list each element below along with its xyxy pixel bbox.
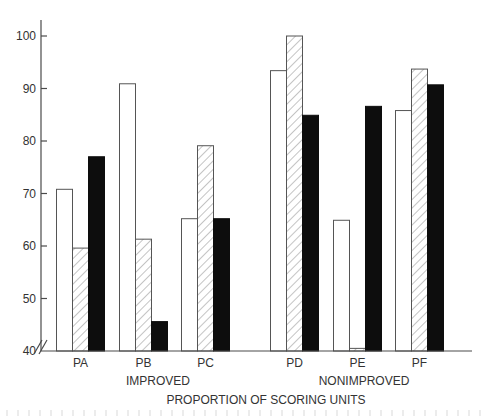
bar-pa-black — [89, 157, 105, 351]
bar-pd-hatched — [287, 36, 303, 351]
cut-off-caption-line — [0, 410, 490, 416]
bar-pd-white — [271, 71, 287, 351]
x-category-label: PB — [135, 356, 151, 370]
y-tick-label: 100 — [16, 29, 36, 43]
bar-pb-black — [152, 322, 168, 351]
y-tick-label: 40 — [23, 344, 37, 358]
group-label-improved: IMPROVED — [126, 374, 190, 388]
x-axis-title: PROPORTION OF SCORING UNITS — [166, 393, 365, 407]
x-category-label: PE — [349, 356, 365, 370]
bar-group-pa — [57, 157, 105, 351]
bar-pc-hatched — [198, 146, 214, 351]
bar-pd-black — [303, 115, 319, 351]
bar-group-pb — [120, 84, 168, 351]
group-label-nonimproved: NONIMPROVED — [319, 374, 410, 388]
bar-pc-white — [182, 219, 198, 351]
bar-pc-black — [214, 219, 230, 351]
y-tick-label: 80 — [23, 134, 37, 148]
bar-pb-hatched — [136, 239, 152, 351]
y-axis: 405060708090100 — [16, 20, 47, 358]
y-tick-label: 50 — [23, 292, 37, 306]
grouped-bar-chart: 405060708090100 PAPBPCPDPEPF IMPROVED NO… — [0, 0, 490, 416]
x-category-label: PD — [286, 356, 303, 370]
bars — [57, 36, 444, 351]
y-tick-label: 60 — [23, 239, 37, 253]
bar-pf-hatched — [412, 69, 428, 351]
bar-group-pe — [334, 106, 382, 351]
y-tick-label: 90 — [23, 82, 37, 96]
bar-pf-white — [396, 111, 412, 351]
bar-pa-hatched — [73, 248, 89, 351]
bar-pe-black — [366, 106, 382, 351]
bar-pf-black — [428, 85, 444, 351]
bar-pa-white — [57, 189, 73, 351]
x-category-label: PA — [73, 356, 88, 370]
y-tick-label: 70 — [23, 187, 37, 201]
bar-pb-white — [120, 84, 136, 351]
bar-group-pd — [271, 36, 319, 351]
bar-pe-white — [334, 220, 350, 351]
x-axis: PAPBPCPDPEPF — [41, 351, 472, 370]
bar-group-pf — [396, 69, 444, 351]
bar-group-pc — [182, 146, 230, 351]
x-category-label: PC — [197, 356, 214, 370]
x-category-label: PF — [412, 356, 427, 370]
